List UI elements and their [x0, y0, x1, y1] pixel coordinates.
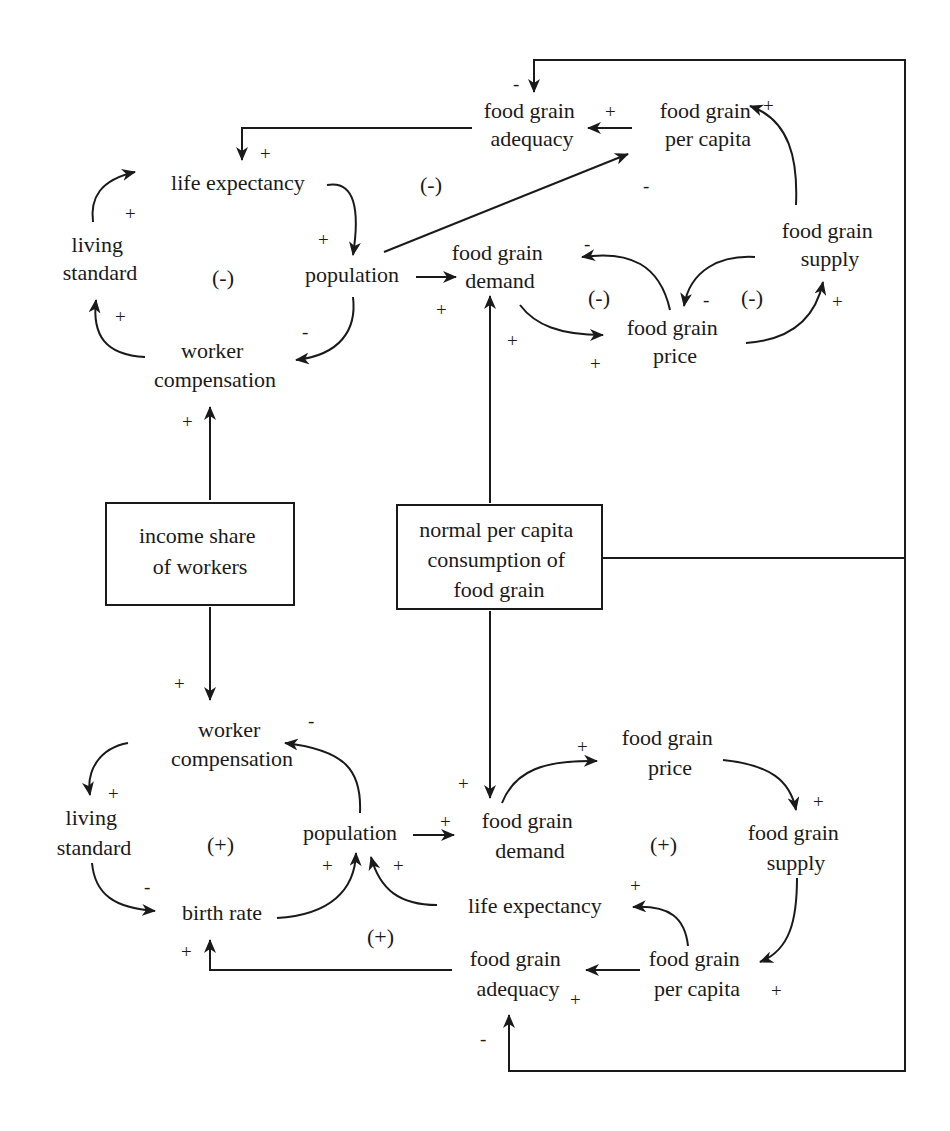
node-bottom-worker-compensation: worker compensation: [171, 717, 293, 771]
polarity-sign: +: [630, 875, 641, 896]
polarity-sign: -: [703, 289, 709, 310]
polarity-sign: +: [590, 353, 601, 374]
polarity-sign: +: [771, 980, 782, 1001]
node-top-food-grain-supply: food grain supply: [782, 218, 879, 271]
link-demand-to-price: [502, 761, 597, 803]
polarity-sign: +: [570, 989, 581, 1010]
polarity-sign: +: [174, 673, 185, 694]
polarity-sign: -: [643, 175, 649, 196]
polarity-sign: +: [125, 203, 136, 224]
link-per-capita-to-life-expectancy: [633, 907, 688, 946]
link-price-to-supply: [723, 760, 796, 810]
polarity-sign: -: [302, 321, 308, 342]
node-bottom-food-grain-adequacy: food grain adequacy: [470, 946, 567, 1001]
link-birth-rate-to-population: [277, 853, 356, 918]
node-bottom-life-expectancy: life expectancy: [468, 893, 602, 918]
polarity-sign: +: [605, 101, 616, 122]
exogenous-variables: income share of workers normal per capit…: [106, 503, 905, 609]
polarity-sign: +: [832, 291, 843, 312]
polarity-sign: -: [513, 73, 519, 94]
polarity-sign: +: [182, 411, 193, 432]
loop-marker: (-): [420, 172, 442, 197]
polarity-sign: -: [144, 876, 150, 897]
loop-marker: (-): [212, 265, 234, 290]
polarity-sign: +: [393, 855, 404, 876]
polarity-sign: -: [584, 233, 590, 254]
node-bottom-birth-rate: birth rate: [182, 900, 262, 925]
link-population-to-worker-compensation: [285, 743, 360, 813]
node-top-food-grain-per-capita: food grain per capita: [660, 98, 757, 151]
polarity-sign: +: [260, 143, 271, 164]
node-top-living-standard: living standard: [63, 232, 138, 285]
loop-marker: (+): [650, 832, 677, 857]
node-bottom-food-grain-price: food grain price: [622, 725, 719, 780]
link-supply-to-per-capita: [760, 878, 797, 962]
link-population-to-per-capita: [384, 154, 628, 252]
node-top-food-grain-demand: food grain demand: [452, 240, 549, 293]
polarity-sign: +: [115, 306, 126, 327]
polarity-sign: +: [813, 791, 824, 812]
node-bottom-food-grain-per-capita: food grain per capita: [649, 946, 746, 1001]
polarity-sign: +: [436, 299, 447, 320]
polarity-sign: +: [318, 229, 329, 250]
loop-marker: (+): [207, 832, 234, 857]
polarity-sign: +: [458, 773, 469, 794]
loop-marker: (-): [588, 285, 610, 310]
polarity-sign: +: [440, 811, 451, 832]
top-diagram: food grain adequacy food grain per capit…: [0, 0, 905, 560]
polarity-sign: +: [507, 330, 518, 351]
node-top-life-expectancy: life expectancy: [171, 170, 305, 195]
link-adequacy-to-life-expectancy: [242, 128, 472, 160]
node-top-food-grain-adequacy: food grain adequacy: [484, 98, 581, 151]
polarity-sign: +: [577, 736, 588, 757]
polarity-sign: +: [763, 95, 774, 116]
node-bottom-food-grain-demand: food grain demand: [482, 808, 579, 863]
loop-marker: (+): [367, 924, 394, 949]
polarity-sign: +: [108, 783, 119, 804]
link-adequacy-to-birth-rate: [210, 940, 452, 970]
link-life-expectancy-to-population: [327, 184, 356, 255]
causal-loop-diagram: food grain adequacy food grain per capit…: [0, 0, 950, 1131]
polarity-sign: +: [181, 941, 192, 962]
polarity-sign: -: [480, 1028, 486, 1049]
link-life-expectancy-to-population: [371, 857, 437, 905]
polarity-sign: +: [322, 855, 333, 876]
node-bottom-living-standard: living standard: [57, 805, 132, 860]
node-top-food-grain-price: food grain price: [627, 315, 724, 368]
node-top-population: population: [305, 262, 399, 287]
node-bottom-food-grain-supply: food grain supply: [748, 820, 845, 875]
node-top-worker-compensation: worker compensation: [154, 338, 276, 392]
node-bottom-population: population: [303, 820, 397, 845]
link-supply-to-per-capita: [750, 106, 796, 205]
polarity-sign: -: [308, 710, 314, 731]
loop-marker: (-): [741, 285, 763, 310]
